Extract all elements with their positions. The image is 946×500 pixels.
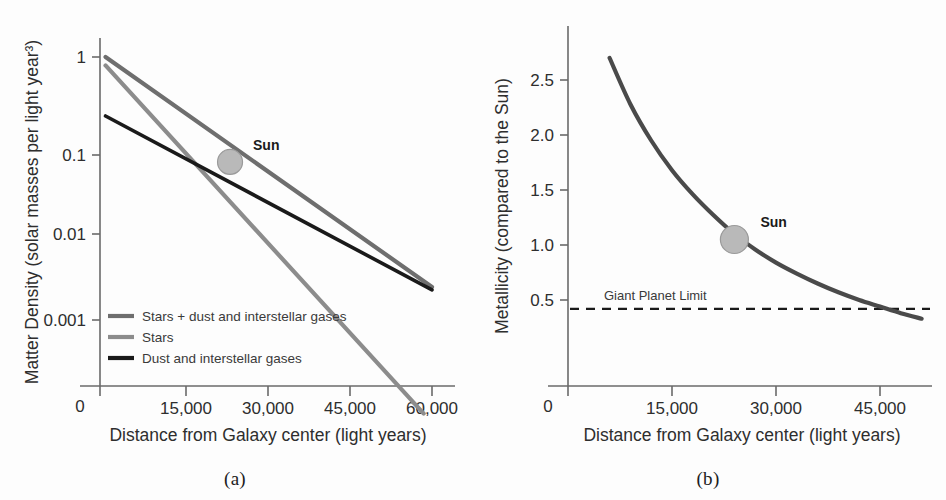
y-tick-label: 0.5 [530,291,554,310]
y-ticks-a: 1 0.1 0.01 0.001 [43,48,100,330]
y-tick-label: 1 [77,48,86,67]
panel-a-caption: (a) [0,468,470,490]
panel-a: 1 0.1 0.01 0.001 0 15,000 30,000 45,000 … [0,0,470,500]
giant-planet-limit-label: Giant Planet Limit [604,288,707,303]
x-tick-label: 45,000 [854,399,906,418]
y-tick-label: 0.01 [53,225,86,244]
series-line-metallicity [610,58,922,319]
x-tick-label: 0 [75,397,84,416]
panel-b-caption: (b) [470,468,946,490]
legend-label-stars-dust-gases: Stars + dust and interstellar gases [142,309,347,324]
y-axis-title-b: Metallicity (compared to the Sun) [492,78,512,334]
sun-marker-label: Sun [760,214,786,230]
x-axis-title-a: Distance from Galaxy center (light years… [109,425,426,445]
figure-container: 1 0.1 0.01 0.001 0 15,000 30,000 45,000 … [0,0,946,500]
y-tick-label: 0.1 [62,146,86,165]
y-axis-title-a: Matter Density (solar masses per light y… [22,40,42,384]
x-ticks-b: 0 15,000 30,000 45,000 [543,386,906,418]
y-tick-label: 2.0 [530,126,554,145]
y-tick-label: 1.5 [530,181,554,200]
x-tick-label: 15,000 [160,399,212,418]
y-tick-label: 1.0 [530,236,554,255]
y-ticks-b: 0.5 1.0 1.5 2.0 2.5 [530,71,568,310]
legend-label-dust-gases: Dust and interstellar gases [142,351,302,366]
panel-b: 0.5 1.0 1.5 2.0 2.5 0 15,000 30,000 45,0… [470,0,946,500]
x-axis-title-b: Distance from Galaxy center (light years… [583,425,900,445]
x-tick-label: 0 [543,397,552,416]
y-tick-label: 0.001 [43,311,86,330]
y-tick-label: 2.5 [530,71,554,90]
legend-label-stars: Stars [142,330,174,345]
sun-circle-icon [218,149,243,174]
sun-circle-icon [720,226,748,254]
sun-marker-label: Sun [253,137,279,153]
panel-a-plot: 1 0.1 0.01 0.001 0 15,000 30,000 45,000 … [0,0,470,460]
panel-b-plot: 0.5 1.0 1.5 2.0 2.5 0 15,000 30,000 45,0… [470,0,946,460]
legend-a: Stars + dust and interstellar gases Star… [108,309,347,366]
x-tick-label: 30,000 [242,399,294,418]
x-tick-label: 15,000 [646,399,698,418]
x-tick-label: 30,000 [750,399,802,418]
x-tick-label: 45,000 [324,399,376,418]
series-line-stars-dust-gases [106,57,432,287]
